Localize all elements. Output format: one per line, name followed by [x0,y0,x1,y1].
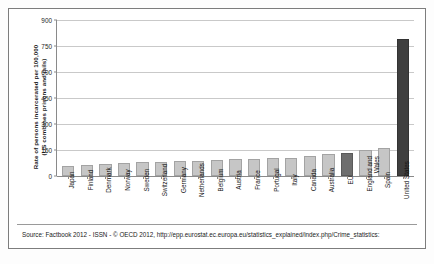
x-label-slot: Spain [375,178,394,230]
bar-slot [356,20,375,176]
x-tick-label-canada: Canada [310,169,317,191]
y-tick-label-750: 750 [41,43,52,50]
y-tick-mark-0 [54,176,57,177]
bar-slot [393,20,412,176]
x-label-slot: Portugal [263,178,282,230]
x-tick-label-portugal: Portugal [273,168,280,191]
x-tick-label-norway: Norway [124,169,131,190]
bar-slot [282,20,301,176]
x-label-slot: France [245,178,264,230]
y-tick-label-600: 600 [41,69,52,76]
x-label-slot: Italy [282,178,301,230]
x-label-slot: Switzerland [152,178,171,230]
x-label-slot: Australia [319,178,338,230]
bar-slot [226,20,245,176]
x-tick-label-belgium: Belgium [217,169,224,192]
x-tick-label-italy: Italy [291,174,298,186]
x-tick-label-france: France [254,170,261,190]
bar-slot [319,20,338,176]
source-divider [17,224,417,225]
y-tick-label-900: 900 [41,17,52,24]
x-tick-label-spain: Spain [384,172,391,188]
bar-series [57,20,414,176]
x-label-slot: Denmark [96,178,115,230]
x-tick-label-germany: Germany [180,167,187,193]
bar-slot [133,20,152,176]
source-caption: Source: Factbook 2012 - ISSN - © OECD 20… [22,231,418,238]
bar-slot [59,20,78,176]
bar-slot [301,20,320,176]
y-tick-mark-600 [54,72,57,73]
plot-area: 0150300450600750900 [57,20,414,176]
chart-figure: Rate of persons incarcerated per 100,000… [0,0,434,264]
y-tick-label-450: 450 [41,95,52,102]
x-tick-label-japan: Japan [68,171,75,188]
x-label-slot: United States [393,178,412,230]
bar-slot [189,20,208,176]
bar-slot [96,20,115,176]
y-tick-label-300: 300 [41,121,52,128]
x-label-slot: Sweden [133,178,152,230]
x-tick-label-netherlands: Netherlands [198,163,205,197]
bar-slot [152,20,171,176]
x-label-slot: Austria [226,178,245,230]
bar-slot [78,20,97,176]
x-tick-label-sweden: Sweden [143,169,150,192]
y-axis-title-line1: Rate of persons incarcerated per 100,000 [32,45,39,170]
x-label-slot: EU [338,178,357,230]
x-tick-label-eu: EU [347,176,354,185]
y-tick-mark-300 [54,124,57,125]
y-tick-mark-900 [54,20,57,21]
x-label-slot: Finland [78,178,97,230]
bar-slot [263,20,282,176]
y-tick-label-0: 0 [48,173,52,180]
bar-slot [170,20,189,176]
x-tick-label-united-states: United States [403,161,410,199]
bar-united-states[interactable] [397,39,409,176]
x-tick-label-finland: Finland [87,170,94,191]
bar-slot [338,20,357,176]
y-tick-mark-150 [54,150,57,151]
bar-slot [208,20,227,176]
x-label-slot: Netherlands [189,178,208,230]
bar-slot [115,20,134,176]
x-tick-label-switzerland: Switzerland [161,164,168,197]
x-axis-tick-labels: JapanFinlandDenmarkNorwaySwedenSwitzerla… [57,178,414,230]
x-tick-label-denmark: Denmark [105,167,112,193]
y-tick-label-150: 150 [41,147,52,154]
x-label-slot: Germany [170,178,189,230]
y-tick-mark-450 [54,98,57,99]
x-label-slot: Norway [115,178,134,230]
x-tick-label-austria: Austria [235,170,242,190]
x-label-slot: Japan [59,178,78,230]
x-label-slot: England and Wales [356,178,375,230]
y-tick-mark-750 [54,46,57,47]
x-label-slot: Canada [301,178,320,230]
bar-slot [245,20,264,176]
bar-eu[interactable] [341,153,353,176]
x-tick-label-australia: Australia [328,168,335,193]
bar-slot [375,20,394,176]
x-label-slot: Belgium [208,178,227,230]
